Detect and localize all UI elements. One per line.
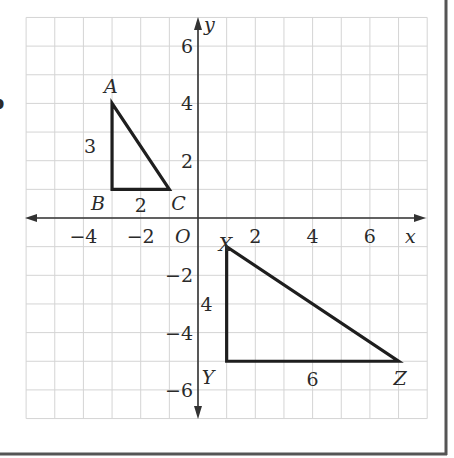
- y-tick-label: 2: [181, 150, 193, 172]
- x-axis-label: x: [405, 225, 416, 247]
- vertex-label-y: Y: [202, 366, 217, 388]
- vertex-label-b: B: [90, 192, 105, 214]
- x-tick-label: −2: [127, 225, 155, 247]
- vertex-label-x: X: [217, 233, 234, 255]
- y-tick-label: −2: [165, 264, 193, 286]
- side-length-label: 3: [84, 135, 96, 157]
- side-length-label: 2: [135, 194, 147, 216]
- y-tick-label: 4: [181, 92, 193, 114]
- vertex-label-a: A: [102, 75, 118, 97]
- side-length-label: 6: [307, 368, 319, 390]
- y-tick-label: 6: [181, 35, 193, 57]
- vertex-label-z: Z: [393, 367, 408, 389]
- y-tick-label: −6: [165, 379, 193, 401]
- x-tick-label: −4: [69, 225, 97, 247]
- vertex-label-c: C: [171, 192, 186, 214]
- x-tick-label: 6: [364, 225, 376, 247]
- x-axis-right-arrow-icon: [414, 214, 426, 222]
- side-length-label: 4: [201, 293, 213, 315]
- y-tick-label: −4: [165, 322, 193, 344]
- x-tick-label: 2: [249, 225, 261, 247]
- x-axis-left-arrow-icon: [25, 214, 37, 222]
- origin-label: O: [175, 225, 191, 247]
- coordinate-plane-figure: b x y O −4−2246642−2−4−6 ABC32XYZ46: [0, 0, 454, 458]
- y-axis-label: y: [203, 13, 215, 35]
- y-axis-down-arrow-icon: [194, 406, 202, 419]
- y-axis-up-arrow-icon: [194, 17, 202, 30]
- x-tick-label: 4: [307, 225, 319, 247]
- partial-left-label: b: [0, 91, 4, 113]
